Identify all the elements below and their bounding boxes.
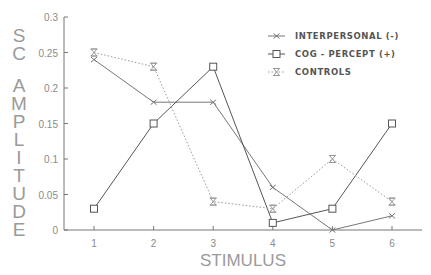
- marker-shape: [329, 205, 336, 212]
- y-tick-label: 0.15: [39, 119, 59, 130]
- y-tick-label: 0.3: [44, 12, 58, 23]
- marker-square: [269, 219, 276, 226]
- marker-x: [270, 185, 276, 190]
- y-tick-label: 0: [52, 225, 58, 236]
- legend-item: COG - PERCEPT (+): [268, 49, 396, 59]
- series-1: [91, 63, 396, 226]
- x-tick-label: 4: [270, 238, 276, 249]
- marker-shape: [150, 120, 157, 127]
- marker-shape: [91, 205, 98, 212]
- axes: 00.050.10.150.20.250.3123456: [39, 12, 422, 249]
- legend-item: CONTROLS: [268, 67, 352, 77]
- marker-square: [150, 120, 157, 127]
- marker-shape: [273, 51, 280, 58]
- marker-shape: [269, 219, 276, 226]
- y-axis-title-letter: E: [13, 219, 26, 240]
- marker-square: [389, 120, 396, 127]
- marker-hourglass: [91, 49, 98, 56]
- marker-shape: [151, 63, 157, 70]
- x-tick-label: 3: [210, 238, 216, 249]
- chart: 00.050.10.150.20.250.3123456 SCAMPLITUDE…: [0, 0, 431, 275]
- marker-square: [329, 205, 336, 212]
- marker-hourglass: [329, 156, 336, 163]
- marker-shape: [389, 120, 396, 127]
- y-axis-title: SCAMPLITUDE: [11, 25, 27, 240]
- y-tick-label: 0.25: [39, 48, 59, 59]
- legend-label: COG - PERCEPT (+): [295, 49, 396, 59]
- x-tick-label: 1: [91, 238, 97, 249]
- marker-square: [91, 205, 98, 212]
- legend: INTERPERSONAL (-)COG - PERCEPT (+)CONTRO…: [268, 31, 399, 77]
- marker-square: [210, 63, 217, 70]
- x-tick-label: 5: [330, 238, 336, 249]
- y-tick-label: 0.05: [39, 190, 59, 201]
- series-line: [94, 67, 392, 223]
- legend-item: INTERPERSONAL (-): [268, 31, 399, 41]
- marker-x: [91, 57, 97, 62]
- y-tick-label: 0.2: [44, 83, 58, 94]
- y-axis-title-letter: C: [12, 43, 26, 64]
- marker-hourglass: [150, 63, 157, 70]
- marker-shape: [389, 198, 395, 205]
- marker-shape: [91, 49, 97, 56]
- marker-shape: [210, 63, 217, 70]
- x-tick-label: 2: [151, 238, 157, 249]
- x-axis-title: STIMULUS: [200, 251, 286, 270]
- marker-square: [273, 51, 280, 58]
- marker-hourglass: [389, 198, 396, 205]
- y-tick-label: 0.1: [44, 154, 58, 165]
- marker-shape: [329, 156, 335, 163]
- legend-label: INTERPERSONAL (-): [295, 31, 399, 41]
- legend-label: CONTROLS: [295, 67, 352, 77]
- x-tick-label: 6: [389, 238, 395, 249]
